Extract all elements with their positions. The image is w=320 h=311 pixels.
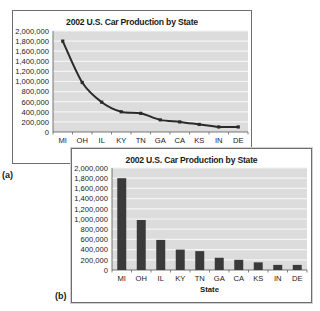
data-point-marker (217, 125, 220, 128)
y-tick-label: 1,000,000 (74, 215, 108, 224)
x-tick-label: CA (233, 274, 244, 283)
y-tick-label: 800,000 (22, 87, 49, 96)
y-tick-label: 800,000 (81, 225, 108, 234)
data-point-marker (198, 123, 201, 126)
x-tick-label: IN (274, 274, 282, 283)
y-tick-label: 2,000,000 (15, 27, 49, 36)
x-tick-label: KY (175, 274, 185, 283)
bar (254, 262, 263, 270)
y-tick-label: 400,000 (22, 108, 49, 117)
x-tick-label: IL (99, 136, 105, 145)
data-point-marker (139, 112, 142, 115)
line-chart-frame: 2002 U.S. Car Production by State 0200,0… (12, 10, 252, 164)
bar (273, 265, 282, 270)
y-tick-label: 600,000 (22, 98, 49, 107)
x-axis-title: State (200, 285, 220, 294)
bar (176, 250, 185, 270)
x-tick-label: IL (158, 274, 164, 283)
y-tick-label: 1,600,000 (74, 184, 108, 193)
x-tick-label: DE (292, 274, 303, 283)
y-tick-label: 0 (104, 266, 108, 275)
y-tick-label: 400,000 (81, 245, 108, 254)
data-point-marker (81, 81, 84, 84)
bar (234, 260, 243, 270)
data-point-marker (61, 40, 64, 43)
y-tick-label: 1,200,000 (74, 205, 108, 214)
x-tick-label: CA (174, 136, 185, 145)
figure-label-b: (b) (55, 291, 67, 301)
x-tick-label: KS (253, 274, 263, 283)
x-tick-label: GA (214, 274, 226, 283)
x-tick-label: TN (136, 136, 146, 145)
data-point-marker (159, 118, 162, 121)
x-tick-label: OH (77, 136, 88, 145)
y-tick-label: 1,400,000 (74, 194, 108, 203)
x-tick-label: IN (215, 136, 223, 145)
y-tick-label: 200,000 (22, 118, 49, 127)
bar (156, 240, 165, 270)
x-tick-label: KY (116, 136, 126, 145)
y-tick-label: 1,800,000 (74, 174, 108, 183)
bar (137, 220, 146, 270)
y-tick-label: 200,000 (81, 256, 108, 265)
x-tick-label: GA (155, 136, 167, 145)
data-point-marker (120, 110, 123, 113)
figure-label-a: (a) (2, 170, 13, 180)
data-point-marker (237, 125, 240, 128)
data-point-marker (178, 120, 181, 123)
y-tick-label: 1,200,000 (15, 67, 49, 76)
x-tick-label: MI (59, 136, 67, 145)
bar-chart-plot: 0200,000400,000600,000800,0001,000,0001,… (72, 149, 311, 302)
data-point-marker (100, 101, 103, 104)
y-tick-label: 600,000 (81, 235, 108, 244)
y-tick-label: 1,800,000 (15, 37, 49, 46)
y-tick-label: 0 (45, 128, 49, 137)
line-chart-plot: 0200,000400,000600,000800,0001,000,0001,… (13, 11, 251, 163)
x-tick-label: TN (195, 274, 205, 283)
bar (215, 258, 224, 270)
x-tick-label: OH (136, 274, 147, 283)
bar-chart-frame: 2002 U.S. Car Production by State 0200,0… (71, 148, 312, 303)
bar (195, 251, 204, 270)
y-tick-label: 1,400,000 (15, 57, 49, 66)
y-tick-label: 1,600,000 (15, 47, 49, 56)
bar (293, 265, 302, 270)
x-tick-label: DE (233, 136, 244, 145)
x-tick-label: KS (194, 136, 204, 145)
y-tick-label: 2,000,000 (74, 164, 108, 173)
y-tick-label: 1,000,000 (15, 77, 49, 86)
bar (117, 178, 126, 270)
x-tick-label: MI (118, 274, 126, 283)
